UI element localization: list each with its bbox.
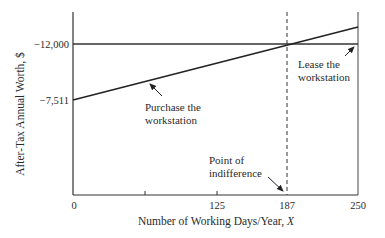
y-tick-label-12000: −12,000 [34,39,69,50]
lease-annotation-arrow [345,47,354,56]
x-axis-title: Number of Working Days/Year, X [138,215,295,228]
x-tick-label-125: 125 [209,200,225,211]
purchase-annotation-arrow [150,84,162,96]
y-tick-label-7511: −7,511 [40,95,69,106]
indifference-annotation-line2: indifference [209,167,262,179]
purchase-annotation-line1: Purchase the [145,101,201,113]
y-axis-title: After-Tax Annual Worth, $ [14,52,27,176]
lease-annotation-line1: Lease the [298,58,340,70]
purchase-annotation-line2: workstation [145,114,197,126]
x-tick-label-187: 187 [279,200,295,211]
x-axis-title-text: Number of Working Days/Year, [138,215,287,228]
lease-annotation-line2: workstation [298,71,350,83]
indifference-annotation-arrow [268,177,283,191]
break-even-chart: −12,000 −7,511 0 125 187 250 Number of W… [0,0,385,238]
x-axis-variable: X [286,215,295,227]
indifference-annotation-line1: Point of [209,154,244,166]
x-tick-label-250: 250 [350,200,366,211]
x-tick-label-0: 0 [71,200,76,211]
